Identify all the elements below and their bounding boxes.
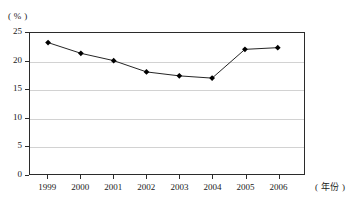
data-point-marker bbox=[144, 69, 150, 75]
y-axis-tick bbox=[25, 146, 29, 147]
x-axis-tick-label: 2000 bbox=[63, 182, 97, 192]
data-point-marker bbox=[45, 40, 51, 46]
x-axis-tick bbox=[179, 175, 180, 179]
x-axis-tick bbox=[146, 175, 147, 179]
x-axis-tick-label: 2001 bbox=[96, 182, 130, 192]
y-axis-unit-label: ( % ) bbox=[8, 11, 28, 22]
x-axis-tick bbox=[47, 175, 48, 179]
y-axis-tick-label: 5 bbox=[1, 141, 22, 150]
y-axis-tick bbox=[25, 61, 29, 62]
data-point-marker bbox=[78, 50, 84, 56]
y-axis-tick-label: 15 bbox=[1, 84, 22, 93]
x-axis-tick bbox=[80, 175, 81, 179]
data-point-marker bbox=[275, 45, 281, 51]
x-axis-unit-label: ( 年份 ) bbox=[315, 182, 345, 192]
x-axis-tick bbox=[246, 175, 247, 179]
y-axis-tick bbox=[25, 175, 29, 176]
y-axis-tick-label: 10 bbox=[1, 113, 22, 122]
x-axis-tick-label: 2005 bbox=[229, 182, 263, 192]
x-axis-tick-label: 2004 bbox=[195, 182, 229, 192]
x-axis-tick bbox=[212, 175, 213, 179]
y-axis-tick bbox=[25, 32, 29, 33]
x-axis-tick-label: 2002 bbox=[129, 182, 163, 192]
y-axis-tick-label: 25 bbox=[1, 27, 22, 36]
y-axis-tick bbox=[25, 89, 29, 90]
x-axis-tick-label: 2006 bbox=[262, 182, 296, 192]
x-axis-tick bbox=[113, 175, 114, 179]
series-line bbox=[48, 43, 278, 79]
x-axis-tick-label: 1999 bbox=[30, 182, 64, 192]
y-axis-tick bbox=[25, 118, 29, 119]
series-markers bbox=[45, 40, 280, 81]
x-axis-tick-label: 2003 bbox=[162, 182, 196, 192]
y-axis-tick-label: 0 bbox=[1, 170, 22, 179]
plot-area bbox=[29, 32, 305, 175]
x-axis-tick bbox=[279, 175, 280, 179]
line-chart: ( % ) 0510152025 19992000200120022003200… bbox=[0, 0, 356, 209]
data-point-marker bbox=[111, 58, 117, 64]
y-axis-tick-label: 20 bbox=[1, 56, 22, 65]
data-point-marker bbox=[176, 73, 182, 79]
series-line-group bbox=[30, 33, 304, 174]
